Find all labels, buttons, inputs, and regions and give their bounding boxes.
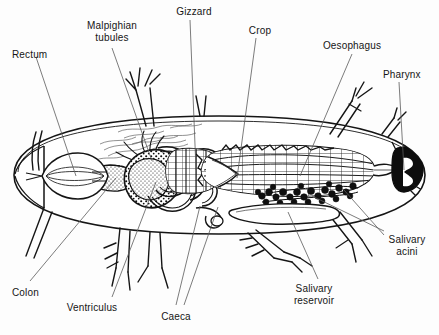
salivary-reservoir	[229, 204, 340, 225]
label-caeca: Caeca	[155, 311, 197, 323]
label-oesophagus: Oesophagus	[312, 40, 392, 52]
label-pharynx: Pharynx	[383, 69, 421, 81]
label-crop: Crop	[240, 25, 280, 37]
label-colon: Colon	[12, 287, 39, 299]
label-ventriculus: Ventriculus	[56, 302, 128, 314]
label-salivary-reservoir: Salivary reservoir	[278, 283, 350, 306]
label-gizzard: Gizzard	[168, 6, 220, 18]
label-malpighian-tubules: Malpighian tubules	[68, 20, 156, 43]
label-salivary-acini: Salivary acini	[378, 234, 436, 257]
label-rectum: Rectum	[12, 49, 47, 61]
anatomy-figure: Rectum Malpighian tubules Gizzard Crop O…	[0, 0, 439, 335]
